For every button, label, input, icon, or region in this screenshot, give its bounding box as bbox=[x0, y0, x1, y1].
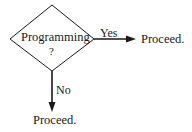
no-target-label: Proceed. bbox=[33, 114, 76, 127]
yes-arrowhead-icon bbox=[126, 36, 136, 43]
flowchart-canvas bbox=[0, 0, 192, 132]
no-branch-label: No bbox=[56, 84, 71, 96]
yes-branch-label: Yes bbox=[100, 27, 117, 39]
yes-target-label: Proceed. bbox=[141, 33, 184, 46]
no-arrowhead-icon bbox=[49, 102, 56, 112]
decision-question-mark: ? bbox=[49, 46, 54, 57]
decision-label: Programming bbox=[21, 31, 90, 44]
